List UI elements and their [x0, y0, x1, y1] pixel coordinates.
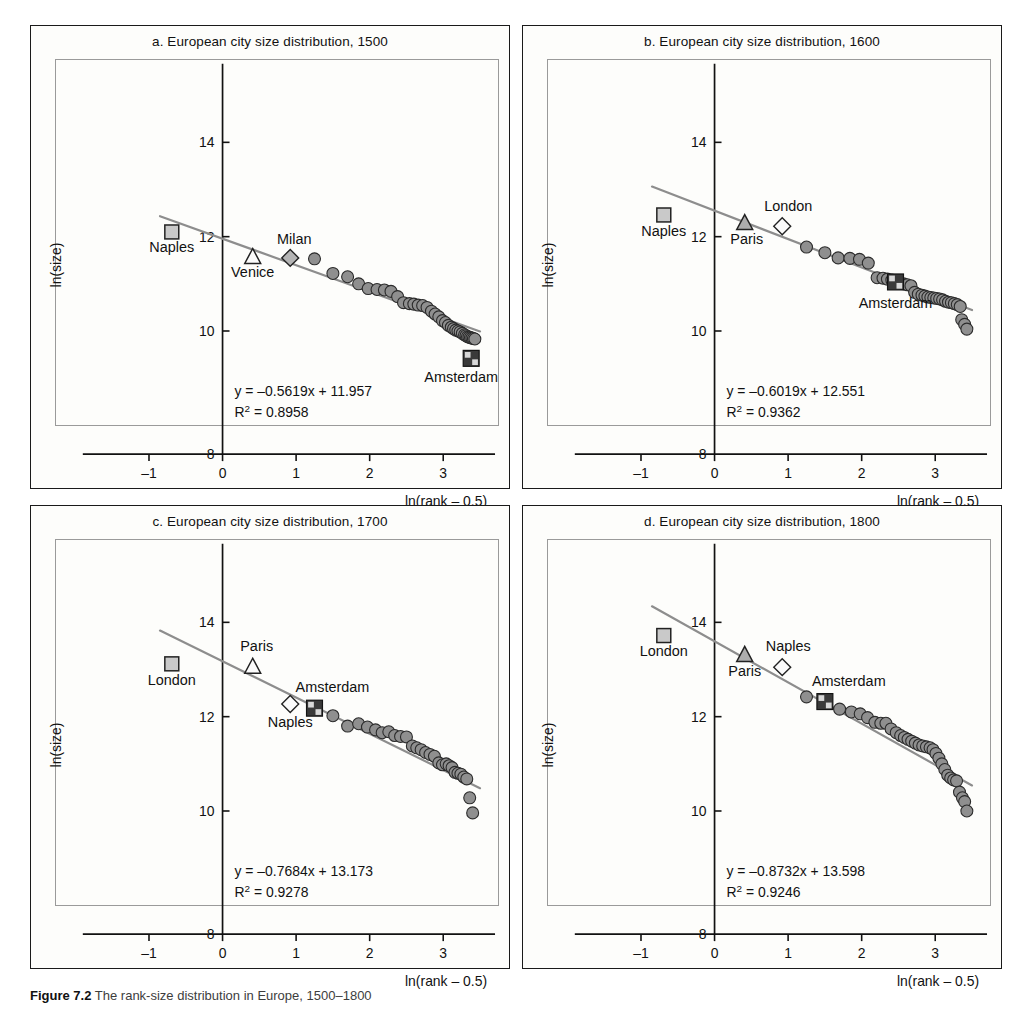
data-point [309, 253, 321, 265]
data-point [862, 257, 874, 269]
chart-panel-c: c. European city size distribution, 1700… [30, 505, 510, 969]
data-point [467, 807, 479, 819]
data-point [342, 271, 354, 283]
regression-r2: R2 = 0.8958 [235, 403, 309, 420]
x-tick-label: 3 [439, 465, 447, 481]
city-marker-amsterdam [463, 350, 479, 366]
x-tick-label: 2 [858, 945, 866, 961]
city-label-amsterdam: Amsterdam [424, 369, 498, 385]
data-point [801, 691, 813, 703]
city-marker-naples [657, 208, 671, 222]
chart-panel-d: d. European city size distribution, 1800… [522, 505, 1002, 969]
y-tick-label: 8 [699, 446, 707, 462]
y-tick-label: 14 [199, 614, 215, 630]
plot-svg-b: –101238101214ln(rank – 0.5)ln(size)Naple… [523, 26, 1001, 488]
city-marker-milan [282, 249, 299, 266]
x-tick-label: 2 [366, 465, 374, 481]
data-point [832, 252, 844, 264]
city-label-paris: Paris [730, 231, 763, 247]
data-point [327, 267, 339, 279]
y-tick-label: 12 [691, 709, 707, 725]
x-tick-label: 1 [784, 465, 792, 481]
x-tick-label: –1 [633, 465, 649, 481]
city-marker-amsterdam [888, 274, 904, 290]
city-marker-naples [774, 659, 791, 676]
x-tick-label: 1 [784, 945, 792, 961]
y-tick-label: 14 [691, 614, 707, 630]
plot-svg-a: –101238101214ln(rank – 0.5)ln(size)Naple… [31, 26, 509, 488]
city-marker-london [774, 218, 791, 235]
city-label-paris: Paris [728, 663, 761, 679]
x-tick-label: 1 [292, 945, 300, 961]
y-axis-title: ln(size) [48, 723, 64, 768]
data-point [834, 703, 846, 715]
city-label-milan: Milan [277, 231, 311, 247]
city-marker-amsterdam [307, 700, 323, 716]
regression-r2: R2 = 0.9246 [727, 883, 801, 900]
data-point [469, 333, 481, 345]
plot-svg-c: –101238101214ln(rank – 0.5)ln(size)Londo… [31, 506, 509, 968]
city-label-london: London [148, 672, 196, 688]
regression-r2: R2 = 0.9278 [235, 883, 309, 900]
x-tick-label: 3 [931, 465, 939, 481]
y-tick-label: 10 [199, 323, 215, 339]
x-tick-label: –1 [141, 945, 157, 961]
y-tick-label: 10 [691, 803, 707, 819]
data-point [342, 720, 354, 732]
data-point [801, 241, 813, 253]
x-tick-label: 0 [711, 465, 719, 481]
city-label-naples: Naples [641, 223, 686, 239]
y-tick-label: 10 [691, 323, 707, 339]
y-tick-label: 8 [207, 446, 215, 462]
y-axis-title: ln(size) [540, 723, 556, 768]
city-marker-london [657, 629, 671, 643]
data-point [954, 300, 966, 312]
chart-panel-a: a. European city size distribution, 1500… [30, 25, 510, 489]
data-point [327, 710, 339, 722]
regression-r2: R2 = 0.9362 [727, 403, 801, 420]
y-axis-title: ln(size) [540, 243, 556, 288]
y-tick-label: 14 [199, 134, 215, 150]
caption-number: Figure 7.2 [30, 988, 91, 1003]
regression-equation: y = –0.5619x + 11.957 [235, 383, 373, 399]
data-point [951, 775, 963, 787]
city-marker-paris [245, 658, 261, 673]
x-tick-label: 0 [219, 945, 227, 961]
city-label-london: London [764, 198, 812, 214]
figure-caption: Figure 7.2 The rank-size distribution in… [30, 988, 990, 1013]
city-label-amsterdam: Amsterdam [859, 295, 933, 311]
x-tick-label: 3 [439, 945, 447, 961]
data-point [464, 792, 476, 804]
x-tick-label: –1 [141, 465, 157, 481]
city-label-venice: Venice [231, 264, 274, 280]
y-tick-label: 8 [699, 926, 707, 942]
city-marker-naples [165, 225, 179, 239]
city-label-amsterdam: Amsterdam [812, 673, 886, 689]
regression-equation: y = –0.6019x + 12.551 [727, 383, 866, 399]
city-label-naples: Naples [766, 638, 811, 654]
x-tick-label: –1 [633, 945, 649, 961]
data-point [961, 805, 973, 817]
regression-equation: y = –0.7684x + 13.173 [235, 863, 374, 879]
y-tick-label: 14 [691, 134, 707, 150]
x-tick-label: 0 [711, 945, 719, 961]
x-tick-label: 3 [931, 945, 939, 961]
figure-root: a. European city size distribution, 1500… [0, 0, 1021, 1013]
x-tick-label: 2 [858, 465, 866, 481]
city-marker-london [165, 657, 179, 671]
caption-text: The rank-size distribution in Europe, 15… [95, 988, 372, 1003]
city-marker-amsterdam [817, 694, 833, 710]
data-point [961, 323, 973, 335]
city-label-paris: Paris [240, 638, 273, 654]
y-tick-label: 10 [199, 803, 215, 819]
x-axis-title: ln(rank – 0.5) [405, 973, 487, 989]
city-label-london: London [640, 643, 688, 659]
x-tick-label: 0 [219, 465, 227, 481]
y-axis-title: ln(size) [48, 243, 64, 288]
city-marker-paris [737, 215, 753, 230]
plot-svg-d: –101238101214ln(rank – 0.5)ln(size)Londo… [523, 506, 1001, 968]
data-point [819, 247, 831, 259]
city-label-naples: Naples [149, 239, 194, 255]
x-tick-label: 2 [366, 945, 374, 961]
x-axis-title: ln(rank – 0.5) [897, 973, 979, 989]
